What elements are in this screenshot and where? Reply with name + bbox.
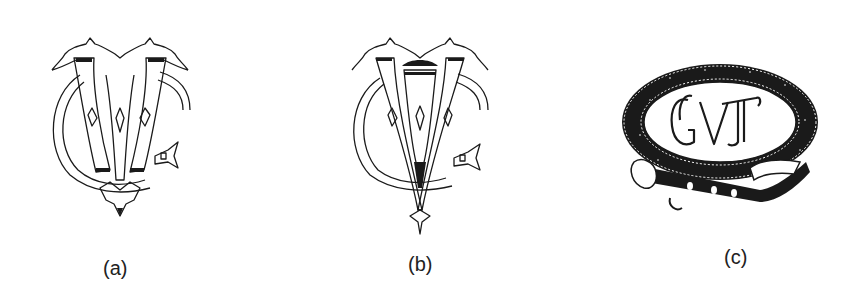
belt-monogram-c-illustration <box>610 50 830 220</box>
panel-b <box>340 20 500 240</box>
panel-a-label: (a) <box>103 257 127 280</box>
panel-c <box>610 50 830 220</box>
monogram-b-illustration <box>340 20 500 240</box>
panel-c-label: (c) <box>724 246 747 269</box>
panel-a <box>40 20 200 230</box>
panel-b-label: (b) <box>408 253 432 276</box>
monogram-a-illustration <box>40 20 200 230</box>
